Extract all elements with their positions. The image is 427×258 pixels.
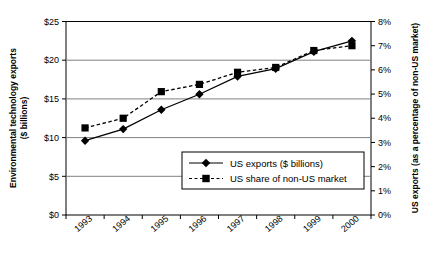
chart-svg: $0$5$10$15$20$25 0%1%2%3%4%5%6%7%8% 1993… [0,0,427,258]
left-axis-tick-label: $15 [44,94,59,104]
x-axis-tick-label: 2000 [339,213,361,234]
data-point-square [272,64,279,71]
right-axis-tick-label: 3% [378,138,391,148]
x-axis-tick-label: 1993 [72,213,94,234]
left-axis-tick-label: $10 [44,133,59,143]
data-point-square [234,69,241,76]
square-icon [202,175,209,182]
x-axis: 19931994199519961997199819992000 [66,213,371,234]
right-axis-tick-label: 1% [378,186,391,196]
data-point-square [81,124,88,131]
right-axis-tick-label: 8% [378,17,391,27]
x-axis-tick-label: 1995 [148,213,170,234]
right-axis-tick-label: 5% [378,89,391,99]
chart-legend: US exports ($ billions) US share of non-… [182,152,364,189]
left-axis: $0$5$10$15$20$25 [44,17,66,221]
right-axis-tick-label: 6% [378,65,391,75]
left-axis-title-line2: ($ billions) [19,97,29,140]
legend-label-us-exports: US exports ($ billions) [230,158,323,169]
right-axis: 0%1%2%3%4%5%6%7%8% [371,17,391,221]
right-axis-tick-label: 0% [378,210,391,220]
left-axis-tick-label: $25 [44,17,59,27]
right-axis-title: US exports (as a percentage of non-US ma… [410,23,420,214]
data-point-square [120,115,127,122]
legend-label-us-share: US share of non-US market [230,173,347,184]
left-axis-tick-label: $0 [49,210,59,220]
x-axis-tick-label: 1998 [263,213,285,234]
left-axis-tick-label: $20 [44,55,59,65]
data-point-square [158,88,165,95]
x-axis-tick-label: 1994 [110,213,132,234]
data-point-square [310,47,317,54]
right-axis-title-text: US exports (as a percentage of non-US ma… [410,23,420,214]
right-axis-tick-label: 7% [378,41,391,51]
data-point-square [348,42,355,49]
chart-container: $0$5$10$15$20$25 0%1%2%3%4%5%6%7%8% 1993… [0,0,427,258]
x-axis-tick-label: 1996 [187,213,209,234]
data-point-square [196,81,203,88]
left-axis-tick-label: $5 [49,172,59,182]
left-axis-title: Environmental technology exports ($ bill… [8,48,29,188]
x-axis-tick-label: 1999 [301,213,323,234]
x-axis-tick-label: 1997 [225,213,247,234]
right-axis-tick-label: 2% [378,162,391,172]
right-axis-tick-label: 4% [378,113,391,123]
left-axis-title-line1: Environmental technology exports [8,48,18,188]
